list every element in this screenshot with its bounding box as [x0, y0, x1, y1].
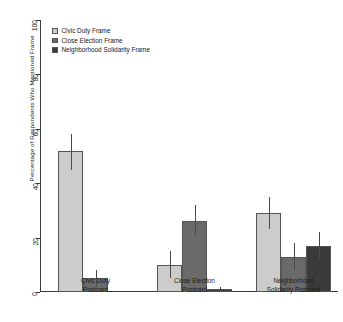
y-axis-line	[40, 20, 41, 292]
legend-item: Neighborhood Solidarity Frame	[52, 45, 150, 55]
legend-item: Close Election Frame	[52, 36, 150, 46]
category-label-line: Civic Duty	[38, 276, 153, 285]
tick-label: 100	[33, 20, 39, 31]
legend: Civic Duty FrameClose Election FrameNeig…	[52, 26, 150, 55]
bar-chart: Percentage of Respondents Who Mentioned …	[0, 0, 343, 322]
error-bar	[319, 232, 320, 259]
category-label: Close ElectionPostcard	[137, 276, 252, 294]
legend-swatch-icon	[52, 47, 58, 53]
error-bar	[294, 243, 295, 270]
legend-label: Neighborhood Solidarity Frame	[62, 45, 150, 55]
bar-group	[157, 20, 232, 292]
category-label-line: Close Election	[137, 276, 252, 285]
bar	[58, 151, 83, 292]
legend-label: Civic Duty Frame	[62, 26, 111, 36]
legend-item: Civic Duty Frame	[52, 26, 150, 36]
y-axis-title: Percentage of Respondents Who Mentioned …	[28, 21, 35, 196]
error-bar	[71, 134, 72, 169]
tick-label: 20	[33, 238, 39, 245]
category-label-line: Solidarity Postcard	[236, 285, 343, 294]
category-label: NeighborhoodSolidarity Postcard	[236, 276, 343, 294]
plot-area: 020406080100	[40, 20, 337, 292]
legend-swatch-icon	[52, 28, 58, 34]
tick-label: 40	[33, 183, 39, 190]
legend-label: Close Election Frame	[62, 36, 123, 46]
bar-group	[58, 20, 133, 292]
category-label-line: Neighborhood	[236, 276, 343, 285]
error-bar	[269, 197, 270, 230]
error-bar	[170, 251, 171, 278]
category-label-line: Postcard	[137, 285, 252, 294]
error-bar	[195, 205, 196, 235]
bar-group	[256, 20, 331, 292]
category-label: Civic DutyPostcard	[38, 276, 153, 294]
legend-swatch-icon	[52, 38, 58, 44]
tick-label: 80	[33, 75, 39, 82]
category-label-line: Postcard	[38, 285, 153, 294]
tick-label: 60	[33, 129, 39, 136]
